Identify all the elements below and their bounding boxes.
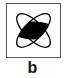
symbol-frame [6, 3, 61, 58]
panel-label: b [0, 59, 65, 77]
four-petal-crossed-ellipses-icon [7, 4, 60, 57]
